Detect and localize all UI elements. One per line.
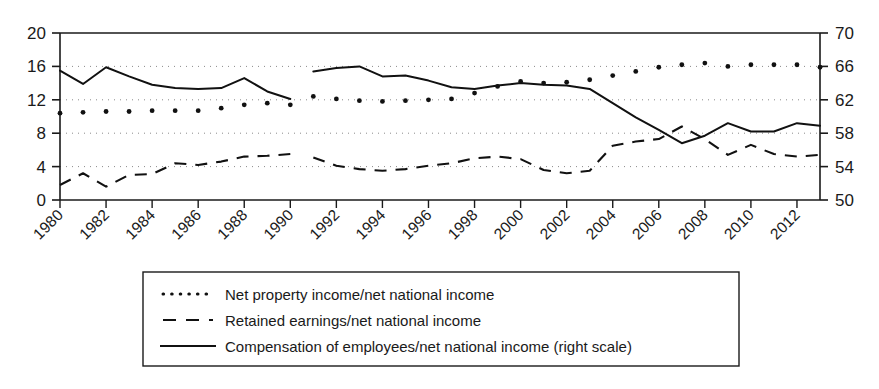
data-point-dot (127, 109, 132, 114)
data-point-dot (150, 108, 155, 113)
data-point-dot (196, 108, 201, 113)
data-point-dot (426, 97, 431, 102)
data-point-dot (818, 65, 823, 70)
data-point-dot (311, 94, 316, 99)
data-point-dot (795, 62, 800, 67)
data-point-dot (58, 111, 63, 116)
data-point-dot (242, 102, 247, 107)
data-point-dot (749, 62, 754, 67)
dual-axis-line-chart: 048121620 505458626670 19801982198419861… (0, 0, 879, 389)
data-point-dot (725, 64, 730, 69)
left-tick-label: 4 (37, 158, 46, 177)
data-point-dot (380, 99, 385, 104)
chart-background (0, 0, 879, 389)
data-point-dot (564, 80, 569, 85)
right-tick-label: 50 (835, 191, 854, 210)
legend-item-compensation-of-employees[interactable]: Compensation of employees/net national i… (160, 338, 632, 355)
data-point-dot (357, 98, 362, 103)
data-point-dot (81, 110, 86, 115)
right-tick-label: 62 (835, 91, 854, 110)
left-tick-label: 8 (37, 124, 46, 143)
data-point-dot (610, 73, 615, 78)
data-point-dot (633, 69, 638, 74)
legend-label-net-property-income: Net property income/net national income (225, 286, 494, 303)
left-tick-label: 20 (27, 24, 46, 43)
right-tick-label: 66 (835, 57, 854, 76)
legend-label-compensation-of-employees: Compensation of employees/net national i… (225, 338, 632, 355)
data-point-dot (472, 91, 477, 96)
legend-label-retained-earnings: Retained earnings/net national income (225, 312, 481, 329)
right-tick-label: 70 (835, 24, 854, 43)
data-point-dot (334, 97, 339, 102)
right-tick-label: 54 (835, 158, 854, 177)
left-tick-label: 12 (27, 91, 46, 110)
left-tick-label: 16 (27, 57, 46, 76)
data-point-dot (772, 62, 777, 67)
data-point-dot (702, 61, 707, 66)
data-point-dot (173, 108, 178, 113)
data-point-dot (679, 62, 684, 67)
data-point-dot (219, 106, 224, 111)
data-point-dot (403, 98, 408, 103)
data-point-dot (656, 65, 661, 70)
data-point-dot (449, 97, 454, 102)
chart-figure: 048121620 505458626670 19801982198419861… (0, 0, 879, 389)
data-point-dot (587, 77, 592, 82)
right-tick-label: 58 (835, 124, 854, 143)
data-point-dot (288, 102, 293, 107)
data-point-dot (104, 109, 109, 114)
left-tick-label: 0 (37, 191, 46, 210)
data-point-dot (265, 101, 270, 106)
